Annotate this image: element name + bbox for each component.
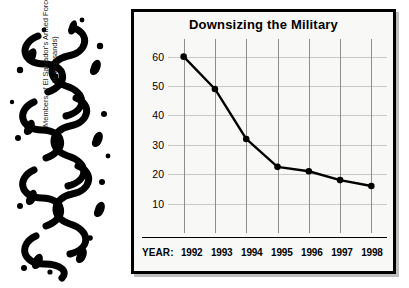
y-axis-label: Members of El Salvador's Armed Forces (i… [41,0,61,158]
data-point-marker [305,168,312,175]
x-axis-row: YEAR: 1992199319941995199619971998 [142,241,387,263]
y-axis-label-line2: (in thousands) [50,0,59,158]
year-caption: YEAR: [142,247,177,258]
y-axis-label-line1: Members of El Salvador's Armed Forces [41,0,50,127]
data-point-marker [212,86,219,93]
x-axis-tick-label: 1997 [327,247,357,258]
y-axis-tick-label: 10 [152,198,164,210]
x-axis-tick-label: 1993 [207,247,237,258]
x-axis-tick-label: 1996 [297,247,327,258]
x-axis-tick-label: 1992 [177,247,207,258]
data-point-marker [180,53,187,60]
plot-area: 605040302010 [168,39,387,233]
x-axis-tick-label: 1995 [267,247,297,258]
y-axis-tick-label: 60 [152,51,164,63]
data-point-marker [368,183,375,190]
y-axis-tick-label: 50 [152,80,164,92]
data-series-line [168,39,387,233]
data-point-marker [274,164,281,171]
year-label-group: 1992199319941995199619971998 [177,247,387,258]
chart-title: Downsizing the Military [134,18,393,32]
data-point-marker [243,136,250,143]
chart-panel: Downsizing the Military Members of El Sa… [131,9,396,274]
page-footnote [8,281,128,288]
x-axis-tick-label: 1994 [237,247,267,258]
page-root: Downsizing the Military Members of El Sa… [0,0,409,288]
plot-inner: 605040302010 [168,39,387,233]
x-axis-tick-label: 1998 [357,247,387,258]
decorative-squiggle-illustration [4,6,122,282]
y-axis-tick-label: 20 [152,168,164,180]
y-axis-tick-label: 30 [152,139,164,151]
data-point-marker [337,177,344,184]
y-axis-tick-label: 40 [152,109,164,121]
x-axis-rule [142,237,387,239]
